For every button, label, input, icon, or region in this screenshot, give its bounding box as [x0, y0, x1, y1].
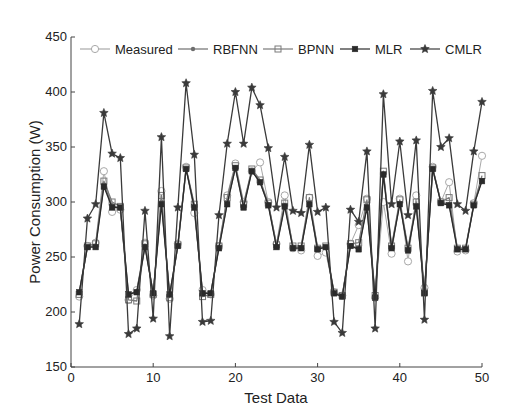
- x-axis-label: Test Data: [244, 389, 308, 406]
- legend-item-cmlr: CMLR: [410, 42, 482, 57]
- filled-square-marker: [183, 166, 189, 172]
- filled-square-marker: [389, 245, 395, 251]
- series-layer: [75, 79, 486, 340]
- dot-marker: [191, 47, 195, 51]
- filled-square-marker: [397, 201, 403, 207]
- star-marker: [297, 209, 306, 217]
- star-marker: [421, 45, 430, 53]
- filled-square-marker: [282, 204, 288, 210]
- filled-square-marker: [356, 247, 362, 253]
- filled-square-marker: [298, 245, 304, 251]
- x-tick-label: 30: [310, 370, 324, 385]
- y-tick-label: 300: [45, 194, 67, 209]
- filled-square-marker: [405, 248, 411, 254]
- filled-square-marker: [159, 201, 165, 207]
- filled-square-marker: [381, 172, 387, 178]
- filled-square-marker: [93, 244, 99, 250]
- chart-container: 15020025030035040045001020304050 Measure…: [0, 0, 515, 418]
- filled-square-marker: [455, 247, 461, 253]
- filled-square-marker: [479, 178, 485, 184]
- star-marker: [198, 317, 207, 325]
- legend-label: Measured: [115, 42, 173, 57]
- x-tick-label: 50: [475, 370, 489, 385]
- line-chart: 15020025030035040045001020304050 Measure…: [0, 0, 515, 418]
- filled-square-marker: [241, 205, 247, 211]
- star-marker: [461, 206, 470, 214]
- star-marker: [371, 324, 380, 332]
- legend-label: CMLR: [445, 42, 482, 57]
- filled-square-marker: [249, 168, 255, 174]
- y-tick-label: 350: [45, 139, 67, 154]
- star-marker: [420, 315, 429, 323]
- circle-marker: [404, 258, 411, 265]
- filled-square-marker: [109, 205, 115, 211]
- x-tick-label: 10: [146, 370, 160, 385]
- star-marker: [91, 200, 100, 208]
- filled-square-marker: [413, 204, 419, 210]
- y-tick-label: 250: [45, 249, 67, 264]
- circle-marker: [91, 45, 98, 52]
- y-tick-label: 400: [45, 84, 67, 99]
- star-marker: [108, 149, 117, 157]
- filled-square-marker: [323, 244, 329, 250]
- star-marker: [206, 316, 215, 324]
- x-tick-label: 40: [393, 370, 407, 385]
- circle-marker: [314, 252, 321, 259]
- filled-square-marker: [274, 244, 280, 250]
- star-marker: [239, 139, 248, 147]
- circle-marker: [281, 192, 288, 199]
- x-tick-label: 20: [228, 370, 242, 385]
- star-marker: [330, 317, 339, 325]
- star-marker: [289, 206, 298, 214]
- legend-label: RBFNN: [213, 42, 258, 57]
- legend-item-mlr: MLR: [340, 42, 402, 57]
- filled-square-marker: [446, 203, 452, 209]
- filled-square-marker: [265, 203, 271, 209]
- legend-label: BPNN: [298, 42, 334, 57]
- star-marker: [404, 211, 413, 219]
- y-tick-label: 200: [45, 304, 67, 319]
- legend: MeasuredRBFNNBPNNMLRCMLR: [80, 42, 482, 57]
- filled-square-marker: [101, 184, 107, 190]
- y-axis-label: Power Consumption (W): [26, 120, 43, 283]
- filled-square-marker: [224, 201, 230, 207]
- legend-label: MLR: [375, 42, 402, 57]
- y-tick-label: 450: [45, 29, 67, 44]
- filled-square-marker: [438, 200, 444, 206]
- legend-item-measured: Measured: [80, 42, 173, 57]
- star-marker: [313, 207, 322, 215]
- filled-square-marker: [463, 247, 469, 253]
- star-marker: [75, 320, 84, 328]
- star-marker: [165, 332, 174, 340]
- filled-square-marker: [430, 166, 436, 172]
- filled-square-marker: [352, 46, 358, 52]
- filled-square-marker: [307, 201, 313, 207]
- star-marker: [124, 330, 133, 338]
- circle-marker: [100, 168, 107, 175]
- x-tick-label: 0: [67, 370, 74, 385]
- legend-item-rbfnn: RBFNN: [178, 42, 258, 57]
- filled-square-marker: [422, 291, 428, 297]
- star-marker: [149, 314, 158, 322]
- filled-square-marker: [290, 245, 296, 251]
- filled-square-marker: [257, 179, 263, 185]
- circle-marker: [478, 152, 485, 159]
- legend-item-bpnn: BPNN: [263, 42, 334, 57]
- circle-marker: [256, 159, 263, 166]
- circle-marker: [446, 179, 453, 186]
- filled-square-marker: [233, 165, 239, 171]
- filled-square-marker: [315, 247, 321, 253]
- y-tick-label: 150: [45, 359, 67, 374]
- star-marker: [272, 203, 281, 211]
- star-marker: [387, 200, 396, 208]
- filled-square-marker: [471, 203, 477, 209]
